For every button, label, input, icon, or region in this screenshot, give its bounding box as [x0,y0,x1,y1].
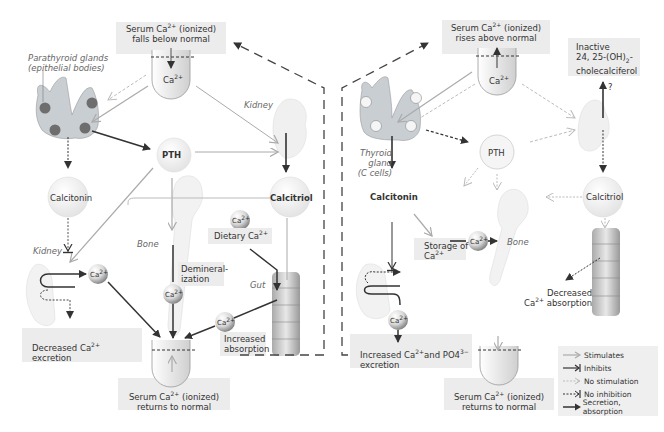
left-gut [272,272,300,356]
increased-excretion-label: Increased Ca2+and PO43− excretion [360,350,469,370]
left-bone-label: Bone [137,239,159,249]
ca-ball-dietary-text: Ca2+ [232,216,250,226]
ca-ball-storage-text: Ca2+ [470,237,488,247]
ca-ball-kidney-text: Ca2+ [90,270,108,280]
left-calcitonin-label: Calcitonin [50,193,92,203]
demineralization-label: Demineral-ization [181,264,228,284]
no-stimulation-arrow-icon [562,377,582,385]
inhibits-arrow-icon [562,364,582,372]
legend-no-stimulation: No stimulation [562,375,639,387]
legend: Stimulates Inhibits No stimulation No in… [558,346,658,416]
decreased-excretion-label: Decreased Ca2+ excretion [32,343,100,363]
thyroid-gland [360,77,422,141]
right-kidney-top [578,100,609,151]
decreased-absorption-label: Decreased Ca2+ absorption [524,288,592,308]
right-top-box-text: Serum Ca2+ (ionized) rises above normal [442,23,550,43]
left-top-box-text: Serum Ca2+ (ionized) falls below normal [116,24,226,44]
right-top-beaker [476,48,520,95]
right-bone-label: Bone [507,237,529,247]
ca-ball-bone-text: Ca2+ [165,290,183,300]
legend-inhibits: Inhibits [562,362,612,374]
dietary-ca-label: Dietary Ca2+ [214,231,268,241]
left-beaker-ca-label: Ca2+ [163,75,183,85]
ca-ball-gut-text: Ca2+ [217,318,235,328]
question-mark: ? [608,82,613,92]
left-kidney-bottom-label: Kidney [33,246,62,256]
right-beaker-ca-label: Ca2+ [489,76,509,86]
left-calcitriol-label: Calcitriol [270,193,313,203]
left-bottom-box-text: Serum Ca2+ (ionized) returns to normal [118,392,230,412]
ca-ball-excretion-text: Ca2+ [390,316,408,326]
storage-label: Storage ofCa2+ [424,241,468,261]
left-kidney-top-label: Kidney [244,100,273,110]
left-pth-label: PTH [162,150,181,160]
legend-stimulates: Stimulates [562,349,624,361]
secretion-arrow-icon [562,403,581,411]
right-calcitonin-label: Calcitonin [370,192,418,202]
right-bottom-beaker [478,336,522,385]
thyroid-label: Thyroidgland(C cells) [356,148,392,178]
right-bottom-box-text: Serum Ca2+ (ionized) returns to normal [444,392,554,412]
inactive-cholecalciferol-label: Inactive 24, 25-(OH)2- cholecalciferol [576,42,637,76]
no-inhibition-arrow-icon [562,390,582,398]
left-gut-label: Gut [250,280,265,290]
right-calcitriol-label: Calcitriol [586,192,623,202]
increased-absorption-label: Increasedabsorption [224,334,269,354]
right-pth-label: PTH [488,148,505,158]
left-kidney-top [273,99,306,158]
legend-secretion-absorption: Secretion, absorption [562,401,658,413]
parathyroid-gland [36,70,98,139]
right-gut [592,228,620,316]
parathyroid-label: Parathyroid glands (epithelial bodies) [28,53,108,73]
stimulates-arrow-icon [562,351,582,359]
